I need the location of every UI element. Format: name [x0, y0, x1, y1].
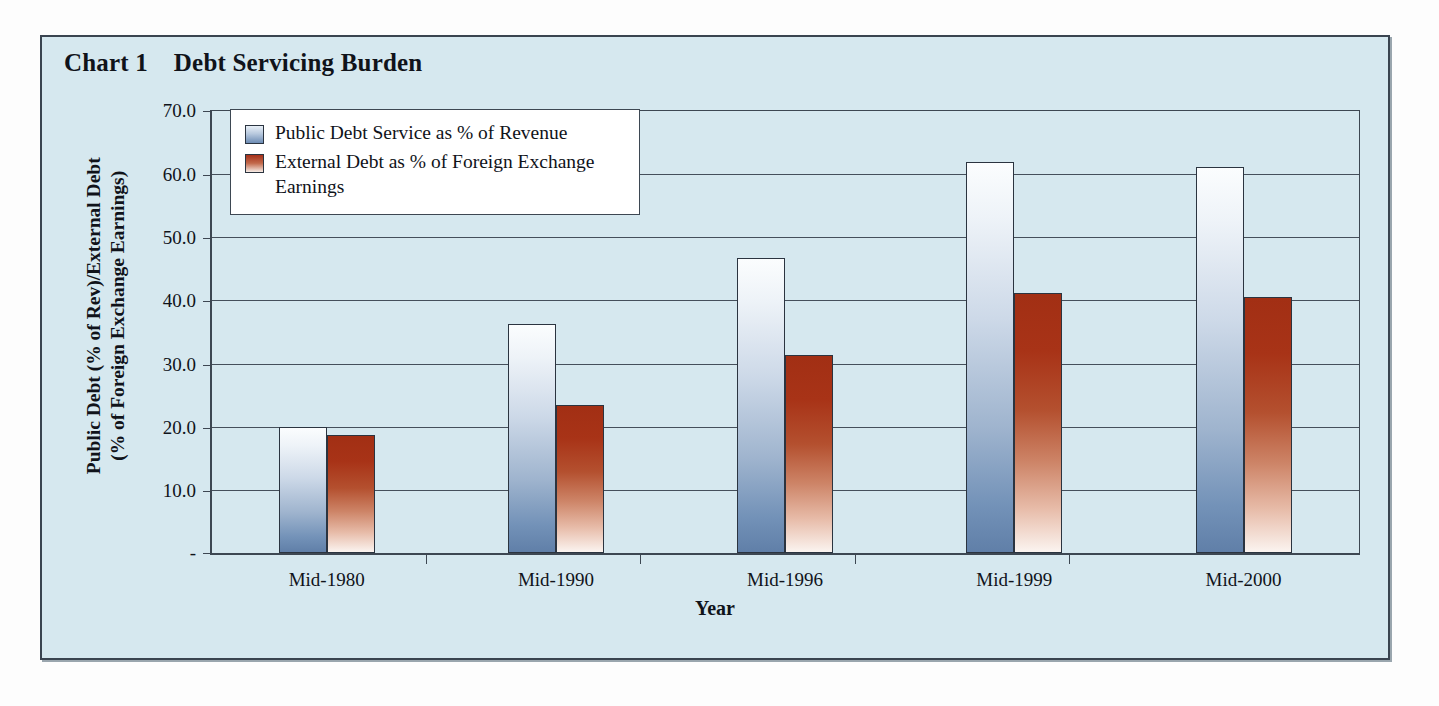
x-separator-3 — [855, 553, 856, 564]
y-tick-30 — [203, 365, 212, 366]
x-axis-title: Year — [42, 597, 1388, 620]
legend-swatch-blue-icon — [245, 125, 264, 144]
y-tick-50 — [203, 238, 212, 239]
y-tick-60 — [203, 175, 212, 176]
x-tick-label-mid-1990: Mid-1990 — [518, 569, 594, 591]
y-tick-10 — [203, 491, 212, 492]
bar-external-debt-mid-1996[interactable] — [785, 355, 833, 553]
x-separator-2 — [640, 553, 641, 564]
x-tick-label-mid-1980: Mid-1980 — [289, 569, 365, 591]
bar-external-debt-mid-1980[interactable] — [327, 435, 375, 553]
y-tick-label-10: 10.0 — [106, 480, 196, 502]
bar-public-debt-mid-1999[interactable] — [966, 162, 1014, 553]
y-gridline-40: 40.0 — [212, 300, 1359, 301]
bar-public-debt-mid-1980[interactable] — [279, 427, 327, 553]
y-tick-label-60: 60.0 — [106, 164, 196, 186]
y-tick-label-40: 40.0 — [106, 290, 196, 312]
y-gridline-50: 50.0 — [212, 237, 1359, 238]
y-tick-0 — [203, 553, 212, 554]
chart-legend: Public Debt Service as % of Revenue Exte… — [230, 109, 640, 215]
bar-external-debt-mid-1999[interactable] — [1014, 293, 1062, 553]
bar-external-debt-mid-1990[interactable] — [556, 405, 604, 553]
legend-item-public-debt[interactable]: Public Debt Service as % of Revenue — [245, 121, 627, 146]
bar-public-debt-mid-2000[interactable] — [1196, 167, 1244, 553]
y-tick-20 — [203, 428, 212, 429]
x-tick-label-mid-1996: Mid-1996 — [747, 569, 823, 591]
legend-item-external-debt[interactable]: External Debt as % of Foreign Exchange E… — [245, 150, 627, 200]
y-tick-40 — [203, 301, 212, 302]
y-tick-label-30: 30.0 — [106, 354, 196, 376]
x-tick-label-mid-1999: Mid-1999 — [976, 569, 1052, 591]
legend-swatch-red-icon — [245, 154, 264, 173]
x-separator-1 — [426, 553, 427, 564]
legend-label-public-debt: Public Debt Service as % of Revenue — [275, 121, 567, 146]
x-separator-4 — [1069, 553, 1070, 564]
y-axis-title-line1: Public Debt (% of Rev)/External Debt — [82, 106, 106, 526]
bar-public-debt-mid-1990[interactable] — [508, 324, 556, 553]
x-tick-label-mid-2000: Mid-2000 — [1206, 569, 1282, 591]
y-tick-label-50: 50.0 — [106, 227, 196, 249]
y-tick-label-70: 70.0 — [106, 100, 196, 122]
y-tick-label-20: 20.0 — [106, 417, 196, 439]
scanned-page: The Immiserisation Crisis of Uganda seve… — [0, 0, 1439, 706]
chart-title: Chart 1 Debt Servicing Burden — [64, 49, 422, 77]
y-tick-label-0: - — [106, 542, 196, 564]
bar-external-debt-mid-2000[interactable] — [1244, 297, 1292, 553]
bar-public-debt-mid-1996[interactable] — [737, 258, 785, 553]
chart-frame: Chart 1 Debt Servicing Burden Public Deb… — [40, 35, 1390, 660]
legend-label-external-debt: External Debt as % of Foreign Exchange E… — [275, 150, 627, 200]
y-tick-70 — [203, 111, 212, 112]
